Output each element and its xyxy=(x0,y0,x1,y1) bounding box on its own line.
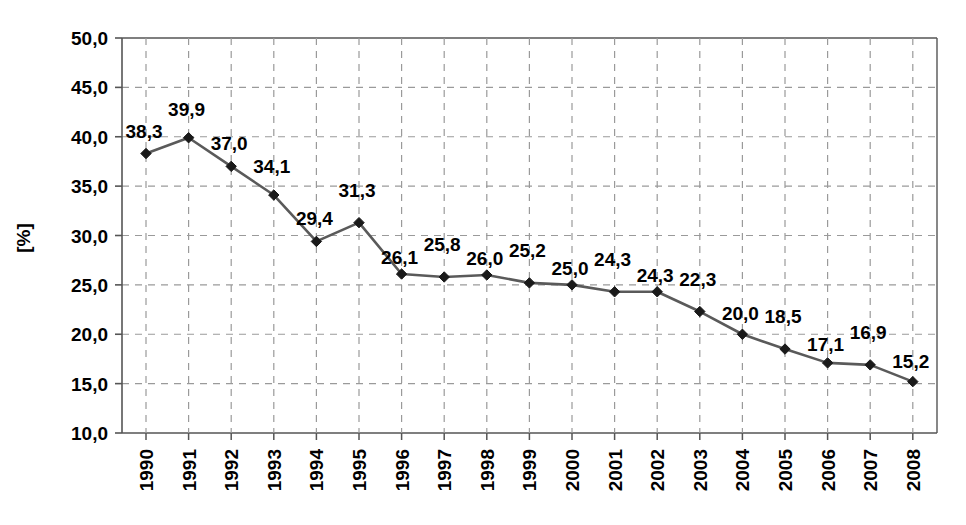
data-point-label: 26,1 xyxy=(381,247,418,268)
x-axis-tick-label: 1998 xyxy=(477,449,498,491)
x-axis-ticks-group: 1990199119921993199419951996199719981999… xyxy=(136,433,924,491)
data-point-label: 25,0 xyxy=(552,258,589,279)
data-point-label: 38,3 xyxy=(126,121,163,142)
x-axis-tick-label: 1995 xyxy=(349,449,370,492)
x-axis-tick-label: 2008 xyxy=(903,449,924,491)
x-axis-tick-label: 2007 xyxy=(860,449,881,491)
chart-container: 50,045,040,035,030,025,020,015,010,0[%]1… xyxy=(0,0,966,525)
data-point-marker[interactable] xyxy=(652,287,662,297)
x-axis-tick-label: 2006 xyxy=(818,449,839,491)
data-point-label: 39,9 xyxy=(168,99,205,120)
x-axis-tick-label: 1991 xyxy=(179,449,200,492)
data-point-label: 24,3 xyxy=(594,249,631,270)
data-point-label: 22,3 xyxy=(679,269,716,290)
y-axis-tick-label: 15,0 xyxy=(71,374,108,395)
line-chart: 50,045,040,035,030,025,020,015,010,0[%]1… xyxy=(0,0,966,525)
data-point-label: 16,9 xyxy=(850,322,887,343)
x-axis-tick-label: 2002 xyxy=(647,449,668,491)
data-point-label: 34,1 xyxy=(253,156,290,177)
data-point-marker[interactable] xyxy=(695,306,705,316)
x-axis-tick-label: 2003 xyxy=(690,449,711,491)
data-point-marker[interactable] xyxy=(609,287,619,297)
data-point-marker[interactable] xyxy=(141,148,151,158)
y-axis-tick-label: 35,0 xyxy=(71,176,108,197)
y-axis-tick-label: 45,0 xyxy=(71,77,108,98)
data-point-label: 26,0 xyxy=(466,248,503,269)
data-point-label: 17,1 xyxy=(807,334,844,355)
data-point-marker[interactable] xyxy=(737,329,747,339)
data-point-marker[interactable] xyxy=(908,376,918,386)
data-point-label: 15,2 xyxy=(892,351,929,372)
data-point-marker[interactable] xyxy=(567,280,577,290)
y-axis-tick-label: 20,0 xyxy=(71,324,108,345)
y-axis-tick-label: 50,0 xyxy=(71,28,108,49)
data-point-label: 37,0 xyxy=(211,133,248,154)
x-axis-tick-label: 2001 xyxy=(605,449,626,492)
data-point-marker[interactable] xyxy=(865,360,875,370)
data-point-marker[interactable] xyxy=(822,358,832,368)
data-point-marker[interactable] xyxy=(524,278,534,288)
data-point-label: 20,0 xyxy=(722,303,759,324)
data-point-label: 25,8 xyxy=(424,234,461,255)
x-axis-tick-label: 2005 xyxy=(775,449,796,492)
x-axis-tick-label: 1993 xyxy=(264,449,285,491)
x-axis-tick-label: 1997 xyxy=(434,449,455,491)
data-point-label: 29,4 xyxy=(296,208,333,229)
y-axis-ticks-group: 50,045,040,035,030,025,020,015,010,0 xyxy=(71,28,122,444)
data-point-marker[interactable] xyxy=(780,344,790,354)
data-point-marker[interactable] xyxy=(482,270,492,280)
data-point-label: 25,2 xyxy=(509,240,546,261)
y-axis-tick-label: 30,0 xyxy=(71,226,108,247)
x-axis-tick-label: 1996 xyxy=(392,449,413,491)
gridlines-group xyxy=(122,38,937,433)
y-axis-tick-label: 40,0 xyxy=(71,127,108,148)
data-point-label: 24,3 xyxy=(637,265,674,286)
y-axis-tick-label: 10,0 xyxy=(71,423,108,444)
x-axis-tick-label: 2004 xyxy=(732,449,753,492)
x-axis-tick-label: 1994 xyxy=(306,449,327,492)
data-point-label: 31,3 xyxy=(339,180,376,201)
x-axis-tick-label: 1992 xyxy=(221,449,242,491)
data-point-label: 18,5 xyxy=(765,306,802,327)
x-axis-tick-label: 2000 xyxy=(562,449,583,491)
x-axis-tick-label: 1990 xyxy=(136,449,157,491)
data-point-marker[interactable] xyxy=(439,272,449,282)
y-axis-title: [%] xyxy=(13,223,34,253)
y-axis-tick-label: 25,0 xyxy=(71,275,108,296)
x-axis-tick-label: 1999 xyxy=(519,449,540,491)
